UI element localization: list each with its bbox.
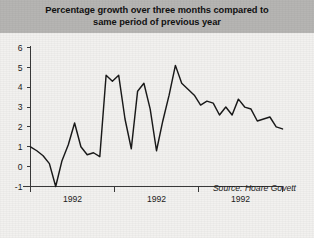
- x-axis-year-label: 1992: [147, 194, 166, 204]
- chart-title-band: Percentage growth over three months comp…: [0, 0, 314, 33]
- x-axis-year-labels: 199219921992: [63, 194, 250, 204]
- x-axis-year-label: 1992: [63, 194, 82, 204]
- y-tick-label: 1: [18, 142, 23, 152]
- y-tick-label: 5: [18, 63, 23, 73]
- y-tick-label: 3: [18, 102, 23, 112]
- chart-title: Percentage growth over three months comp…: [33, 5, 280, 28]
- line-chart-svg: -10123456 199219921992: [0, 33, 314, 238]
- y-tick-label: 2: [18, 122, 23, 132]
- chart-figure: Percentage growth over three months comp…: [0, 0, 314, 238]
- y-tick-label: 4: [18, 82, 23, 92]
- source-note: Source: Hoare Govett: [213, 183, 296, 193]
- plot-area: -10123456 199219921992: [0, 33, 314, 238]
- y-tick-label: 0: [18, 162, 23, 172]
- x-axis-year-label: 1992: [231, 194, 250, 204]
- y-tick-label: 6: [18, 43, 23, 53]
- data-series-line: [31, 65, 283, 186]
- y-tick-label: -1: [15, 182, 23, 192]
- y-axis-ticks: -10123456: [15, 43, 31, 192]
